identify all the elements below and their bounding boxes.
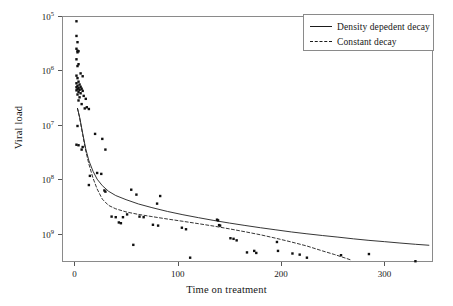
data-point (157, 224, 159, 226)
data-point (80, 88, 82, 90)
data-point (126, 213, 128, 215)
data-point (83, 95, 85, 97)
data-point (135, 193, 137, 195)
data-point (79, 72, 81, 74)
data-point (76, 41, 78, 43)
data-point (75, 89, 77, 91)
data-point (88, 108, 90, 110)
data-point (306, 256, 308, 258)
data-point (78, 83, 80, 85)
data-point (104, 148, 106, 150)
data-point (75, 144, 77, 146)
data-point (115, 216, 117, 218)
data-point (130, 189, 132, 191)
data-point (276, 241, 278, 243)
data-point (76, 93, 78, 95)
data-point (88, 184, 90, 186)
data-point (414, 260, 416, 262)
data-point (80, 103, 82, 105)
data-point (118, 221, 120, 223)
chart-legend: Density depedent decay Constant decay (303, 14, 434, 51)
data-point (159, 195, 161, 197)
data-point (77, 144, 79, 146)
data-point (77, 80, 79, 82)
data-point (142, 216, 144, 218)
data-point (80, 148, 82, 150)
data-point (81, 75, 83, 77)
data-point (75, 82, 77, 84)
data-point (152, 224, 154, 226)
data-point (76, 125, 78, 127)
data-point (76, 65, 78, 67)
data-point (84, 107, 86, 109)
data-point (89, 175, 91, 177)
data-point (75, 20, 77, 22)
data-point (340, 254, 342, 256)
data-point (122, 216, 124, 218)
data-point (76, 51, 78, 53)
data-point (229, 237, 231, 239)
data-point (78, 89, 80, 91)
data-point (291, 252, 293, 254)
data-point (189, 256, 191, 258)
data-point (120, 222, 122, 224)
data-point (96, 172, 98, 174)
data-point (81, 90, 83, 92)
data-point (85, 98, 87, 100)
legend-dashed-line-icon (310, 38, 332, 46)
data-point (79, 92, 81, 94)
data-point (138, 215, 140, 217)
data-point (277, 250, 279, 252)
data-point (100, 173, 102, 175)
data-point (298, 253, 300, 255)
data-point (75, 35, 77, 37)
data-point (104, 190, 106, 192)
data-point (217, 219, 219, 221)
data-point (185, 228, 187, 230)
data-point (253, 250, 255, 252)
data-point (81, 146, 83, 148)
data-point (77, 91, 79, 93)
data-point (156, 202, 158, 204)
legend-label-constant-decay: Constant decay (337, 37, 397, 47)
data-point (246, 251, 248, 253)
data-point (78, 96, 80, 98)
data-point (181, 227, 183, 229)
data-point (255, 252, 257, 254)
data-point (101, 138, 103, 140)
data-point (368, 253, 370, 255)
data-point (232, 238, 234, 240)
data-point (75, 58, 77, 60)
data-point (77, 99, 79, 101)
data-point (86, 106, 88, 108)
legend-solid-line-icon (310, 23, 332, 31)
data-point (94, 133, 96, 135)
legend-item-density-dependent-decay: Density depedent decay (310, 19, 428, 34)
legend-label-density-dependent-decay: Density depedent decay (337, 22, 430, 32)
data-point (235, 239, 237, 241)
legend-item-constant-decay: Constant decay (310, 34, 428, 49)
data-point (219, 224, 221, 226)
data-point (132, 244, 134, 246)
data-point (110, 215, 112, 217)
data-point (76, 77, 78, 79)
data-point (75, 74, 77, 76)
viral-load-decay-chart: Viral load Time on treatment 10910810710… (0, 0, 453, 306)
